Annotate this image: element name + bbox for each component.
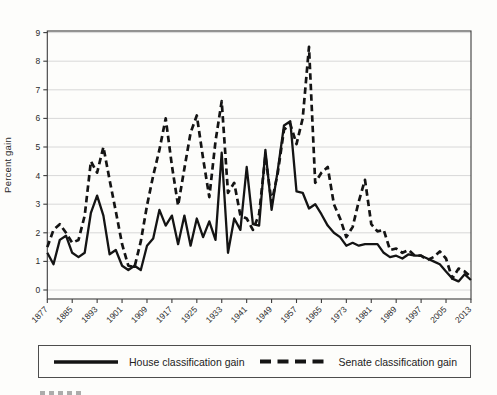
y-tick-label: 0 <box>36 285 41 295</box>
x-tick-label: 1925 <box>179 304 200 325</box>
x-tick-label: 1957 <box>278 304 299 325</box>
plot-frame <box>47 31 471 299</box>
y-tick-label: 3 <box>36 199 41 209</box>
x-tick-label: 2005 <box>428 304 449 325</box>
legend: House classification gain Senate classif… <box>38 345 471 378</box>
x-tick-label: 1949 <box>254 304 275 325</box>
x-tick-label: 1877 <box>29 304 50 325</box>
x-tick-label: 2013 <box>453 304 474 325</box>
y-tick-label: 6 <box>36 113 41 123</box>
y-tick-label: 5 <box>36 142 41 152</box>
x-tick-label: 1941 <box>229 304 250 325</box>
x-tick-label: 1909 <box>129 304 150 325</box>
senate-legend-line-sample <box>258 357 330 366</box>
x-tick-label: 1989 <box>378 304 399 325</box>
y-tick-label: 8 <box>36 56 41 66</box>
x-tick-label: 1893 <box>79 304 100 325</box>
senate-line <box>47 47 471 279</box>
y-tick-label: 2 <box>36 228 41 238</box>
figure: 0123456789187718851893190119091917192519… <box>0 0 497 395</box>
y-tick-label: 1 <box>36 256 41 266</box>
chart: 0123456789187718851893190119091917192519… <box>0 0 497 340</box>
x-tick-label: 1965 <box>303 304 324 325</box>
y-tick-label: 7 <box>36 85 41 95</box>
house-legend-line-sample <box>52 358 120 366</box>
x-tick-label: 1885 <box>54 304 75 325</box>
y-tick-label: 9 <box>36 28 41 38</box>
x-tick-label: 1981 <box>353 304 374 325</box>
x-tick-label: 1973 <box>328 304 349 325</box>
y-axis-title: Percent gain <box>2 25 16 305</box>
legend-item-senate: Senate classification gain <box>258 356 458 368</box>
legend-item-house: House classification gain <box>52 356 245 368</box>
cropped-caption-fragment <box>40 391 84 395</box>
x-tick-label: 1917 <box>154 304 175 325</box>
y-tick-label: 4 <box>36 171 41 181</box>
x-tick-label: 1997 <box>403 304 424 325</box>
house-line <box>47 121 471 281</box>
x-tick-label: 1901 <box>104 304 125 325</box>
senate-legend-label: Senate classification gain <box>339 356 458 368</box>
house-legend-label: House classification gain <box>129 356 245 368</box>
x-tick-label: 1933 <box>204 304 225 325</box>
